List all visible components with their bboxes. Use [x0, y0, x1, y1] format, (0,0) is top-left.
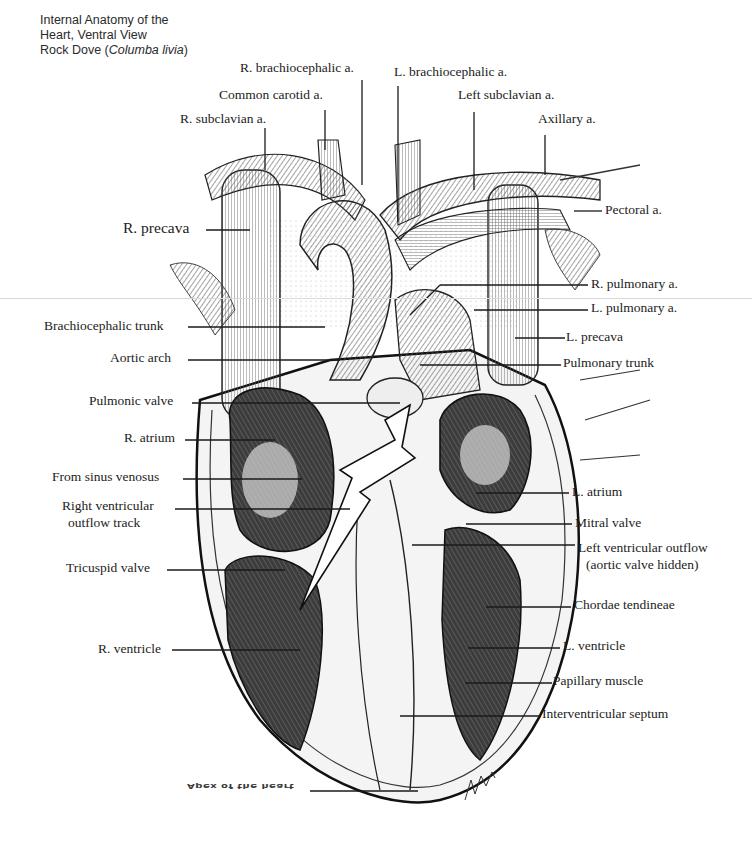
label-from-sinus-venosus: From sinus venosus — [52, 469, 159, 485]
label-l-precava: L. precava — [566, 329, 623, 345]
label-pectoral-a: Pectoral a. — [605, 202, 662, 218]
label-brachiocephalic-trunk: Brachiocephalic trunk — [44, 318, 164, 334]
label-chordae-tendineae: Chordae tendineae — [574, 597, 675, 613]
label-r-precava: R. precava — [123, 220, 189, 236]
label-l-ventricle: L. ventricle — [563, 638, 625, 654]
label-tricuspid-valve: Tricuspid valve — [66, 560, 150, 576]
scan-artifact-line — [0, 298, 752, 299]
label-left-subclavian-a: Left subclavian a. — [458, 87, 554, 103]
label-common-carotid-a: Common carotid a. — [219, 87, 323, 103]
label-r-subclavian-a: R. subclavian a. — [180, 111, 266, 127]
label-aortic-arch: Aortic arch — [110, 350, 171, 366]
label-r-atrium: R. atrium — [124, 430, 175, 446]
label-right-ventricular-outflow-track: Right ventricular outflow track — [62, 497, 154, 531]
label-papillary-muscle: Papillary muscle — [553, 673, 643, 689]
label-left-ventricular-outflow: Left ventricular outflow (aortic valve h… — [578, 539, 708, 573]
label-axillary-a: Axillary a. — [538, 111, 596, 127]
label-l-brachiocephalic-a: L. brachiocephalic a. — [394, 64, 507, 80]
label-r-brachiocephalic-a: R. brachiocephalic a. — [240, 60, 354, 76]
label-mitral-valve: Mitral valve — [575, 515, 641, 531]
label-pulmonary-trunk: Pulmonary trunk — [563, 355, 654, 371]
label-apex-of-the-heart: Apex of the heart — [187, 783, 294, 791]
label-r-pulmonary-a: R. pulmonary a. — [591, 276, 678, 292]
label-pulmonic-valve: Pulmonic valve — [89, 393, 173, 409]
label-l-atrium: L. atrium — [572, 484, 622, 500]
label-interventricular-septum: Interventricular septum — [542, 706, 668, 722]
label-r-ventricle: R. ventricle — [98, 641, 161, 657]
label-l-pulmonary-a: L. pulmonary a. — [591, 300, 677, 316]
